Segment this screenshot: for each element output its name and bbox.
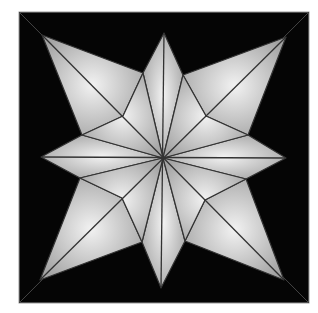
star-diagram bbox=[0, 0, 318, 313]
